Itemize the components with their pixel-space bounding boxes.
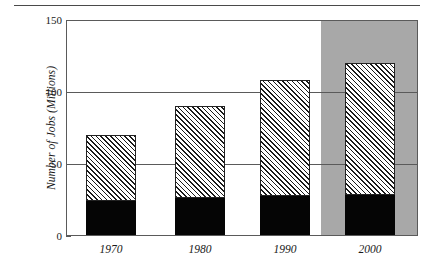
bar-1990: [260, 80, 310, 235]
bar-2000-upper-segment: [345, 63, 395, 195]
bar-2000-lower-segment: [345, 195, 395, 235]
y-tick-mark-0: [66, 236, 71, 237]
y-axis-tick-labels: 150 100 50 0: [30, 20, 62, 236]
bar-1990-upper-segment: [260, 80, 310, 196]
bar-1970-lower-segment: [86, 201, 136, 235]
x-tick-label-2000: 2000: [340, 243, 400, 255]
bar-2000: [345, 63, 395, 235]
bar-1990-lower-segment: [260, 196, 310, 235]
x-tick-label-1970: 1970: [81, 243, 141, 255]
y-tick-label-100: 100: [32, 86, 62, 98]
figure-container: Number of Jobs (Millions) 150 100 50 0: [0, 0, 435, 273]
y-tick-label-0: 0: [32, 230, 62, 242]
bar-1970-upper-segment: [86, 135, 136, 201]
bar-1980-upper-segment: [175, 106, 225, 198]
top-horizontal-rule: [14, 5, 420, 6]
plot-area: [66, 20, 418, 236]
y-tick-label-50: 50: [32, 158, 62, 170]
bar-1970: [86, 135, 136, 235]
bar-1980-lower-segment: [175, 198, 225, 235]
bar-1980: [175, 106, 225, 235]
x-tick-label-1990: 1990: [255, 243, 315, 255]
x-tick-label-1980: 1980: [170, 243, 230, 255]
y-tick-label-150: 150: [32, 14, 62, 26]
